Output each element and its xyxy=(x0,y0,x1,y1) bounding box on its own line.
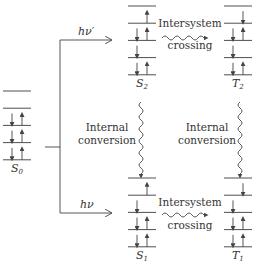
ic-left-line1: Internal xyxy=(86,121,129,133)
state-label-s1: S1 xyxy=(136,249,148,263)
excitation-upper-label: hν′ xyxy=(78,25,95,38)
state-label-t2: T2 xyxy=(232,77,244,91)
ic-right: Internal conversion xyxy=(178,102,242,176)
isc-lower-line1: Intersystem xyxy=(158,196,222,208)
state-t1: T1 xyxy=(224,178,252,263)
ic-right-wavy-arrow xyxy=(238,102,242,176)
state-t2: T2 xyxy=(224,6,252,91)
isc-upper-line2: crossing xyxy=(168,39,213,51)
excitation-lower-label: hν xyxy=(80,198,94,211)
ic-left-line2: conversion xyxy=(78,134,136,146)
state-label-s2: S2 xyxy=(136,77,149,91)
state-s1: S1 xyxy=(128,178,156,263)
state-s0: S0 xyxy=(3,91,31,176)
isc-lower: Intersystem crossing xyxy=(158,196,222,231)
isc-upper-line1: Intersystem xyxy=(158,17,222,29)
isc-lower-line2: crossing xyxy=(168,219,213,231)
state-s2: S2 xyxy=(128,6,156,91)
ic-left: Internal conversion xyxy=(78,102,143,176)
jablonski-diagram: S0S2T2S1T1 hν′ hν Intersystem crossing I… xyxy=(0,0,258,266)
state-label-s0: S0 xyxy=(11,162,24,176)
ic-left-wavy-arrow xyxy=(139,102,143,176)
state-label-t1: T1 xyxy=(232,249,244,263)
ic-right-line2: conversion xyxy=(178,134,236,146)
isc-upper: Intersystem crossing xyxy=(158,17,222,51)
ic-right-line1: Internal xyxy=(186,121,229,133)
isc-lower-wavy-arrow xyxy=(162,213,206,217)
